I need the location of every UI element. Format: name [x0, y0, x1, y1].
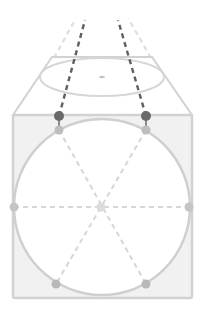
circle-point-top-left	[55, 126, 64, 135]
diagram-svg	[0, 0, 206, 310]
circle-center-point	[97, 203, 106, 212]
circle-point-mid-right	[185, 203, 194, 212]
dark-point-left	[54, 111, 64, 121]
top-center-mark	[99, 76, 105, 78]
dark-point-right	[141, 111, 151, 121]
circle-point-mid-left	[10, 203, 19, 212]
circle-point-bottom-right	[142, 280, 151, 289]
top-face	[13, 57, 192, 115]
circle-point-top-right	[142, 126, 151, 135]
circle-point-bottom-left	[52, 280, 61, 289]
diagram-canvas	[0, 0, 206, 310]
